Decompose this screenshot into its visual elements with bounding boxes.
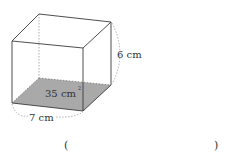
base-area-exponent: 2	[78, 85, 81, 91]
base-area-label: 35 cm	[45, 88, 77, 99]
answer-open-paren: (	[64, 139, 68, 152]
width-label: 7 cm	[29, 112, 54, 123]
height-label: 6 cm	[117, 49, 142, 60]
answer-close-paren: )	[214, 139, 218, 152]
cuboid-diagram: 6 cm 7 cm 35 cm 2 ( )	[0, 0, 227, 158]
